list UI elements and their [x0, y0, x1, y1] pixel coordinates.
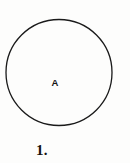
circle-outline-icon [6, 20, 112, 126]
figure-number-caption: 1. [0, 142, 84, 159]
region-label-a: A [47, 77, 63, 89]
figure-container: A 1. [0, 0, 130, 163]
diagram-canvas [0, 0, 130, 140]
circle-diagram [0, 0, 130, 140]
